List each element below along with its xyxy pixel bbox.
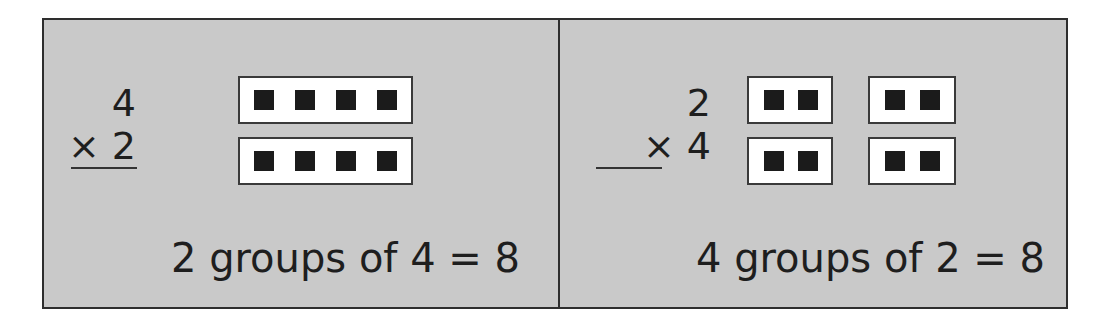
sum-underline: [596, 167, 662, 169]
multiplier: × 4: [641, 127, 711, 165]
multiplier: × 2: [66, 127, 136, 165]
unit-square: [920, 90, 940, 110]
group-box: [238, 137, 413, 185]
unit-square: [377, 151, 397, 171]
caption: 2 groups of 4 = 8: [171, 238, 520, 278]
unit-square: [336, 151, 356, 171]
unit-square: [798, 90, 818, 110]
unit-square: [885, 151, 905, 171]
unit-square: [295, 151, 315, 171]
unit-square: [764, 90, 784, 110]
sum-underline: [71, 167, 137, 169]
group-box: [868, 137, 956, 185]
multiplicand: 4: [66, 84, 136, 122]
group-box: [868, 76, 956, 124]
group-box: [747, 76, 833, 124]
unit-square: [920, 151, 940, 171]
group-box: [238, 76, 413, 124]
multiplicand: 2: [641, 84, 711, 122]
panel-divider: [558, 18, 560, 309]
unit-square: [764, 151, 784, 171]
unit-square: [254, 90, 274, 110]
caption: 4 groups of 2 = 8: [696, 238, 1045, 278]
unit-square: [798, 151, 818, 171]
unit-square: [295, 90, 315, 110]
group-box: [747, 137, 833, 185]
unit-square: [377, 90, 397, 110]
unit-square: [336, 90, 356, 110]
unit-square: [254, 151, 274, 171]
unit-square: [885, 90, 905, 110]
